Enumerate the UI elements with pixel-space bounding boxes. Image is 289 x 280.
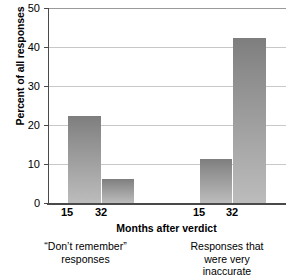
y-tick-label-30: 30 (0, 81, 40, 92)
x-tick-label-group1-32: 32 (81, 206, 121, 218)
y-tick-label-0: 0 (0, 198, 40, 209)
group-caption-left-line2: responses (18, 253, 153, 266)
group-caption-left-line1: “Don’t remember” (18, 240, 153, 253)
y-tick-label-20: 20 (0, 120, 40, 131)
bar-chart-figure: Percent of all responses 50 40 30 20 10 … (0, 0, 289, 280)
y-axis-tick-labels: 50 40 30 20 10 0 (0, 0, 44, 211)
y-tick-label-10: 10 (0, 159, 40, 170)
y-tick-label-40: 40 (0, 42, 40, 53)
x-tick-label-group2-32: 32 (212, 206, 252, 218)
bar-group2-15 (200, 159, 232, 203)
group-caption-right: Responses that were very inaccurate (168, 240, 286, 278)
bar-group2-32 (233, 38, 266, 203)
group-caption-right-line2: were very (168, 253, 286, 266)
x-axis-title: Months after verdict (48, 222, 285, 234)
plot-area (48, 8, 285, 203)
bar-group1-32 (102, 179, 134, 203)
group-caption-right-line1: Responses that (168, 240, 286, 253)
gridline-50 (49, 8, 286, 9)
bar-group1-15 (68, 116, 101, 203)
x-axis-line (47, 203, 286, 205)
group-caption-left: “Don’t remember” responses (18, 240, 153, 265)
y-tick-label-50: 50 (0, 3, 40, 14)
group-caption-right-line3: inaccurate (168, 265, 286, 278)
